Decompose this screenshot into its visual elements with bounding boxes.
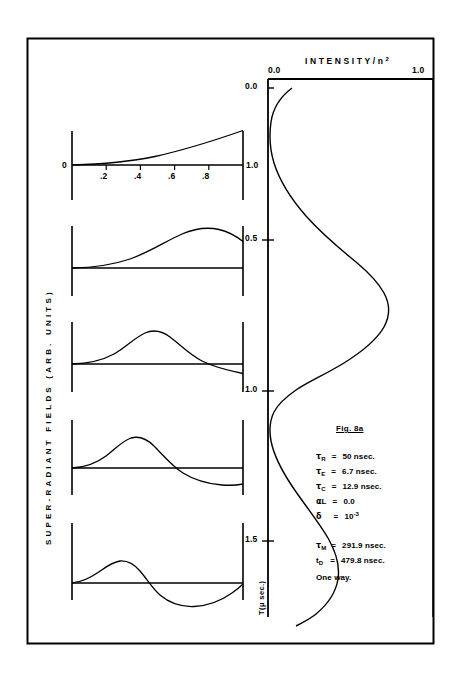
field-curve-5 xyxy=(72,561,243,607)
param-equals-alpha-l: = xyxy=(333,497,338,506)
param-equals-tau-e: = xyxy=(331,467,336,476)
parameter-row-tau-c: τC=12.9 nsec. xyxy=(316,475,426,490)
figure-caption-label: Fig. 8a xyxy=(336,425,446,433)
param-value-delta: 10 xyxy=(344,512,353,521)
left-panel-group xyxy=(72,131,243,607)
field-xtick-1-0: 1.0 xyxy=(246,161,258,170)
param-value-tau-e: 6.7 nsec. xyxy=(342,467,377,476)
param-equals-delta: = xyxy=(334,512,339,521)
time-tick-0-5: 0.5 xyxy=(245,234,257,243)
param-value-alpha-l: 0.0 xyxy=(343,497,354,506)
field-xtick-0-8: .8 xyxy=(202,172,210,181)
param-value-tau-m: 291.9 nsec. xyxy=(342,541,386,550)
param-symbol-alpha-l: α xyxy=(316,497,322,506)
parameter-row-tau-m: τM=291.9 nsec. xyxy=(316,534,426,549)
parameter-row-tau-r: τR=50 nsec. xyxy=(316,445,426,460)
intensity-axis-title: INTENSITY/n2 xyxy=(305,56,391,66)
param-equals-tau-c: = xyxy=(332,482,337,491)
parameter-list: τR=50 nsec. τE=6.7 nsec. τC=12.9 nsec. α… xyxy=(316,445,426,520)
field-curve-1 xyxy=(72,131,243,166)
subpanel-baselines xyxy=(72,165,243,583)
intensity-axis-title-exponent: 2 xyxy=(386,56,392,62)
parameter-row-t-d: tD=479.8 nsec. xyxy=(316,549,426,564)
figure-footer-note: One way. xyxy=(316,574,426,582)
field-axis-title: SUPER-RADIANT FIELDS (ARB. UNITS) xyxy=(45,289,53,545)
param-equals-tau-r: = xyxy=(332,452,337,461)
param-subscript-alpha-l: L xyxy=(322,497,327,506)
parameter-note-block: Fig. 8a τR=50 nsec. τE=6.7 nsec. τC=12.9… xyxy=(316,425,426,546)
field-xtick-0-4: .4 xyxy=(134,172,142,181)
param-exponent-delta: -3 xyxy=(354,511,360,517)
time-tick-0-0: 0.0 xyxy=(245,82,257,91)
intensity-tick-1: 1.0 xyxy=(412,66,424,75)
field-curve-2 xyxy=(72,228,243,268)
field-xtick-0: 0 xyxy=(62,161,67,170)
intensity-tick-0: 0.0 xyxy=(268,66,280,75)
parameter-row-tau-e: τE=6.7 nsec. xyxy=(316,460,426,475)
parameter-list-secondary: τM=291.9 nsec. tD=479.8 nsec. xyxy=(316,534,426,564)
field-xtick-0-2: .2 xyxy=(100,172,108,181)
param-equals-t-d: = xyxy=(330,556,335,565)
parameter-row-alpha-l: αL=0.0 xyxy=(316,490,426,505)
time-axis-label: T(μ sec.) xyxy=(258,581,266,615)
param-symbol-delta: δ xyxy=(316,512,322,521)
param-equals-tau-m: = xyxy=(331,541,336,550)
intensity-axis-title-text: INTENSITY/n xyxy=(305,56,386,66)
time-tick-1-5: 1.5 xyxy=(245,535,257,544)
param-subscript-tau-c: C xyxy=(321,486,325,492)
param-subscript-tau-r: R xyxy=(321,456,325,462)
parameter-row-delta: δ=10-3 xyxy=(316,505,426,520)
param-value-tau-c: 12.9 nsec. xyxy=(342,482,381,491)
param-subscript-tau-m: M xyxy=(321,545,326,551)
param-value-t-d: 479.8 nsec. xyxy=(341,556,385,565)
subpanel-1-xticks xyxy=(106,165,209,170)
field-curve-4 xyxy=(72,437,243,485)
time-tick-1-0: 1.0 xyxy=(245,385,257,394)
param-value-tau-r: 50 nsec. xyxy=(342,452,374,461)
figure-root: INTENSITY/n2 0.0 1.0 0.0 0.5 1.0 1.5 T(μ… xyxy=(0,0,460,678)
param-subscript-tau-e: E xyxy=(321,471,325,477)
field-curve-3 xyxy=(72,331,243,374)
field-xtick-0-6: .6 xyxy=(168,172,176,181)
param-subscript-t-d: D xyxy=(319,560,323,566)
